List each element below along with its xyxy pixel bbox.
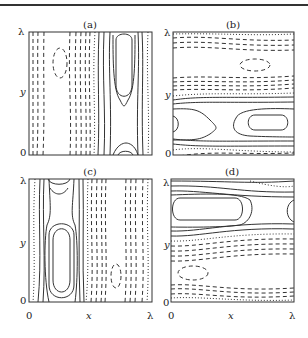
panel-b	[173, 32, 294, 157]
panel-a	[29, 32, 152, 155]
panel-c	[29, 179, 152, 302]
contour-plots	[0, 0, 308, 338]
panel-d	[171, 179, 294, 302]
